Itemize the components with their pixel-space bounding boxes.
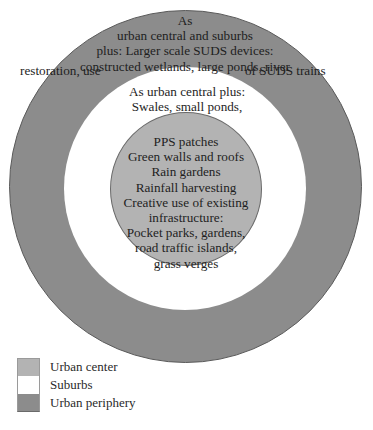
inner-line: PPS patches (124, 134, 249, 149)
suburbs-text: As urban central plus: Swales, small pon… (129, 84, 245, 114)
legend-swatch (17, 376, 40, 394)
outer-line-right-fragment: of SUDS trains (245, 63, 326, 78)
legend-label: Suburbs (50, 377, 93, 393)
urban-center-text: PPS patches Green walls and roofs Rain g… (124, 134, 249, 271)
legend-item-suburbs: Suburbs (17, 376, 136, 394)
outer-line: plus: Larger scale SUDS devices: (80, 43, 290, 58)
legend: Urban center Suburbs Urban periphery (17, 358, 136, 412)
inner-line: Green walls and roofs (124, 149, 249, 164)
middle-line: Swales, small ponds, (129, 99, 245, 114)
legend-item-urban-periphery: Urban periphery (17, 394, 136, 412)
middle-line: As urban central plus: (129, 84, 245, 99)
outer-line: As (80, 13, 290, 28)
inner-line: grass verges (124, 256, 249, 271)
outer-line-left-fragment: restoration, use (20, 63, 101, 78)
legend-swatch (17, 394, 40, 412)
inner-line: Creative use of existing (124, 195, 249, 210)
inner-line: Rain gardens (124, 164, 249, 179)
outer-line: urban central and suburbs (80, 28, 290, 43)
inner-line: infrastructure: (124, 210, 249, 225)
legend-item-urban-center: Urban center (17, 358, 136, 376)
inner-line: road traffic islands, (124, 240, 249, 255)
legend-label: Urban center (50, 359, 118, 375)
legend-label: Urban periphery (50, 395, 136, 411)
inner-line: Rainfall harvesting (124, 180, 249, 195)
inner-line: Pocket parks, gardens, (124, 225, 249, 240)
legend-swatch (17, 358, 40, 376)
